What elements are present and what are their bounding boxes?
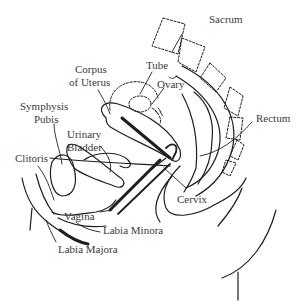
label-ovary: Ovary <box>157 78 185 91</box>
sacrum-vertebrae <box>152 18 244 176</box>
label-tube: Tube <box>146 59 168 72</box>
label-clitoris: Clitoris <box>15 152 48 165</box>
label-corpus-of-uterus-line2: of Uterus <box>69 76 110 89</box>
pelvic-anatomy-diagram: Sacrum Corpus of Uterus Tube Ovary Symph… <box>0 0 303 307</box>
label-sacrum: Sacrum <box>209 13 243 26</box>
label-corpus-of-uterus-line1: Corpus <box>75 63 107 76</box>
external-outlines <box>22 174 276 300</box>
label-rectum: Rectum <box>256 112 290 125</box>
label-cervix: Cervix <box>177 193 207 206</box>
label-vagina: Vagina <box>64 210 95 223</box>
label-labia-majora: Labia Majora <box>58 243 118 256</box>
label-labia-minora: Labia Minora <box>103 224 163 237</box>
label-urinary-bladder-line1: Urinary <box>67 128 101 141</box>
vagina-canal <box>110 158 170 214</box>
label-symphysis-pubis-line2: Pubis <box>34 113 58 126</box>
label-symphysis-pubis-line1: Symphysis <box>20 100 68 113</box>
label-urinary-bladder-line2: Bladder <box>67 141 102 154</box>
